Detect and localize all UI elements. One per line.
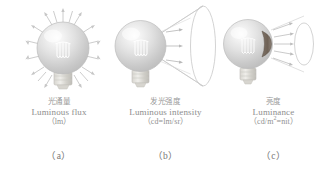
panel-label-c: （c） (218, 148, 329, 162)
caption-block-c: 亮度 Luminance （cd/m2=nit） (218, 98, 329, 127)
bulb-base (132, 70, 149, 87)
intensity-arrow-group (166, 28, 183, 63)
receiving-surface (295, 23, 314, 65)
panel-luminance: 亮度 Luminance （cd/m2=nit） （c） (218, 0, 329, 172)
caption-english-b: Luminous intensity (108, 107, 223, 117)
luminance-ray-group (273, 22, 294, 65)
bulb-base (54, 72, 72, 89)
illustration-bulb-emitting-area (218, 0, 329, 100)
illustration-bulb-solid-angle (108, 0, 223, 100)
panel-luminous-intensity: 发光强度 Luminous intensity （cd=lm/sr） （b） (108, 0, 223, 172)
panel-label-a: （a） (0, 148, 118, 162)
photometry-figure: 光通量 Luminous flux （lm） （a） (0, 0, 329, 172)
caption-unit-a: （lm） (0, 118, 118, 127)
caption-unit-c: （cd/m2=nit） (218, 118, 329, 127)
panel-label-b: （b） (108, 148, 223, 162)
caption-unit-b: （cd=lm/sr） (108, 118, 223, 127)
caption-chinese-c: 亮度 (218, 98, 329, 106)
unit-pre: （cd/m (249, 117, 274, 126)
caption-english-a: Luminous flux (0, 107, 118, 117)
illustration-bulb-radiating (0, 0, 118, 100)
caption-chinese-a: 光通量 (0, 98, 118, 106)
bulb-base (240, 68, 256, 84)
unit-post: =nit） (277, 117, 298, 126)
caption-block-b: 发光强度 Luminous intensity （cd=lm/sr） (108, 98, 223, 127)
caption-chinese-b: 发光强度 (108, 98, 223, 106)
panel-luminous-flux: 光通量 Luminous flux （lm） （a） (0, 0, 118, 172)
caption-block-a: 光通量 Luminous flux （lm） (0, 98, 118, 127)
